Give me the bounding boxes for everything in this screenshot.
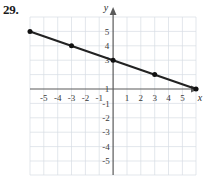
data-point (69, 43, 74, 48)
y-tick-label: -4 (102, 142, 110, 152)
y-axis-arrow (110, 7, 117, 15)
x-tick-label: -5 (40, 93, 48, 103)
y-tick-label: -5 (102, 156, 110, 166)
coordinate-plane: -5 -4 -3 -2 -1 1 2 3 4 5 5 4 3 1 -1 -2 -… (0, 0, 207, 181)
x-tick-label: 2 (139, 93, 144, 103)
graph-figure: 29. (0, 0, 207, 181)
data-point (152, 72, 157, 77)
y-tick-label: -1 (102, 99, 110, 109)
y-axis-label: y (103, 2, 109, 13)
x-tick-label: -4 (54, 93, 62, 103)
data-point (28, 29, 33, 34)
y-tick-label: -2 (102, 113, 110, 123)
x-tick-label: 5 (180, 93, 185, 103)
x-tick-label: 3 (152, 93, 157, 103)
y-tick-label: -3 (102, 127, 110, 137)
x-tick-label: -2 (82, 93, 90, 103)
x-tick-label: 1 (125, 93, 130, 103)
x-tick-label: 4 (166, 93, 171, 103)
y-tick-label: 5 (105, 27, 110, 37)
x-axis-label: x (197, 92, 203, 103)
x-tick-label: -3 (68, 93, 76, 103)
y-tick-label: 4 (105, 41, 110, 51)
data-point (194, 87, 199, 92)
data-point (111, 58, 116, 63)
y-tick-label: 1 (105, 84, 110, 94)
